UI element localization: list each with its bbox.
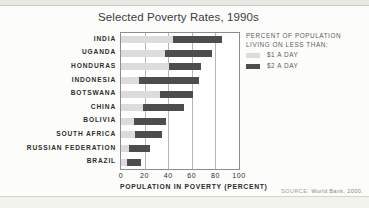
bar-group	[121, 47, 239, 61]
category-label: INDIA	[94, 35, 116, 42]
bar-group	[121, 74, 239, 88]
category-label: INDONESIA	[72, 76, 116, 83]
x-tick-label: 0	[119, 172, 124, 179]
category-axis-labels: INDIAUGANDAHONDURASINDONESIABOTSWANACHIN…	[0, 32, 116, 170]
bar-dollar1	[121, 104, 143, 111]
category-label: CHINA	[91, 103, 116, 110]
bar-dollar2	[169, 63, 201, 70]
bar-dollar1	[121, 36, 173, 43]
value-axis-ticks: 020406080100	[0, 172, 369, 182]
category-label: UGANDA	[82, 48, 116, 55]
legend-swatch-icon	[246, 64, 260, 69]
legend-entry: $2 A DAY	[246, 61, 366, 71]
legend-label: $1 A DAY	[267, 50, 298, 60]
bar-dollar2	[139, 77, 199, 84]
bar-dollar1	[121, 77, 139, 84]
bar-dollar2	[135, 131, 162, 138]
x-tick-label: 100	[232, 172, 245, 179]
legend-swatch-icon	[246, 53, 260, 58]
bar-group	[121, 115, 239, 129]
category-label: BRAZIL	[87, 157, 116, 164]
bar-dollar2	[129, 145, 150, 152]
legend-entry: $1 A DAY	[246, 50, 366, 60]
bar-dollar1	[121, 91, 160, 98]
x-tick-label: 80	[211, 172, 220, 179]
chart-legend: PERCENT OF POPULATION LIVING ON LESS THA…	[246, 31, 366, 71]
top-border-line	[0, 5, 369, 6]
legend-label: $2 A DAY	[267, 61, 298, 71]
bar-dollar2	[173, 36, 223, 43]
source-note: SOURCE: World Bank, 2000.	[281, 188, 363, 194]
bar-dollar1	[121, 63, 169, 70]
x-axis-title: POPULATION IN POVERTY (PERCENT)	[120, 183, 240, 190]
source-prefix: SOURCE:	[281, 188, 309, 194]
bar-dollar2	[165, 50, 212, 57]
legend-heading-line-2: LIVING ON LESS THAN:	[246, 40, 366, 49]
category-label: BOLIVIA	[83, 116, 116, 123]
bar-group	[121, 33, 239, 47]
poverty-rates-figure: Selected Poverty Rates, 1990s INDIAUGAND…	[0, 0, 369, 208]
x-axis-title-text: POPULATION IN POVERTY (PERCENT)	[120, 183, 268, 190]
category-label: RUSSIAN FEDERATION	[27, 144, 116, 151]
bar-dollar2	[127, 159, 141, 166]
legend-heading-line-1: PERCENT OF POPULATION	[246, 31, 366, 40]
bar-group	[121, 142, 239, 156]
category-label: HONDURAS	[71, 62, 116, 69]
plot-area	[120, 32, 240, 170]
bar-group	[121, 101, 239, 115]
x-tick-label: 20	[140, 172, 149, 179]
category-label: BOTSWANA	[71, 89, 116, 96]
bar-dollar1	[121, 145, 129, 152]
x-tick-label: 40	[164, 172, 173, 179]
bar-dollar2	[134, 118, 166, 125]
bar-group	[121, 60, 239, 74]
bar-group	[121, 128, 239, 142]
bar-dollar1	[121, 50, 165, 57]
bar-dollar1	[121, 118, 134, 125]
chart-title: Selected Poverty Rates, 1990s	[0, 11, 369, 23]
x-tick-label: 60	[187, 172, 196, 179]
source-text: World Bank, 2000.	[311, 188, 363, 194]
bar-group	[121, 155, 239, 169]
category-label: SOUTH AFRICA	[56, 130, 116, 137]
legend-entries: $1 A DAY$2 A DAY	[246, 50, 366, 71]
bar-group	[121, 87, 239, 101]
bottom-border-band	[0, 197, 369, 208]
chart-title-text: Selected Poverty Rates, 1990s	[98, 11, 259, 23]
bar-dollar2	[160, 91, 193, 98]
bar-dollar2	[143, 104, 183, 111]
bar-dollar1	[121, 131, 135, 138]
